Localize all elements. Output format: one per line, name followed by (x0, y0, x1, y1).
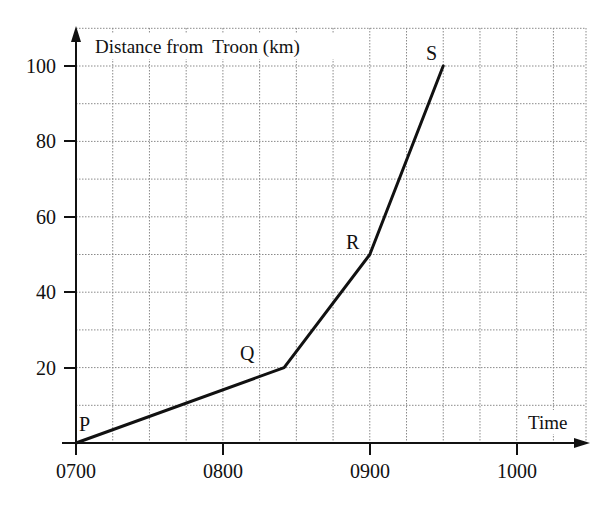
y-tick-label-40: 40 (36, 281, 56, 303)
x-axis-title: Time (528, 412, 567, 433)
y-axis-title: Distance from Troon (km) (95, 36, 300, 58)
x-tick-label-1000: 1000 (497, 460, 537, 482)
x-tick-label-0700: 0700 (56, 460, 96, 482)
y-tick-label-20: 20 (36, 357, 56, 379)
y-tick-label-60: 60 (36, 206, 56, 228)
x-axis-arrow-icon (574, 438, 590, 448)
grid (76, 28, 586, 443)
x-tick-label-0800: 0800 (203, 460, 243, 482)
point-label-q: Q (240, 342, 255, 364)
point-label-s: S (426, 42, 437, 64)
y-tick-label-100: 100 (26, 55, 56, 77)
distance-time-graph: 20 40 60 80 100 0700 0800 0900 1000 Dist… (0, 0, 613, 508)
point-label-r: R (346, 231, 360, 253)
x-tick-label-0900: 0900 (350, 460, 390, 482)
y-tick-label-80: 80 (36, 130, 56, 152)
point-label-p: P (79, 413, 90, 435)
